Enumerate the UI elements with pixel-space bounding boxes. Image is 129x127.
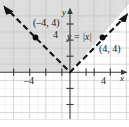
point-label-left: (–4, 4)	[33, 18, 60, 28]
graph-canvas	[0, 0, 129, 127]
y-tick-label-positive-four: 4	[53, 30, 58, 40]
point-marker-left	[33, 35, 39, 41]
absolute-value-graph-figure: (–4, 4) (4, 4) y = |x| x y –4 4 4	[0, 0, 129, 127]
point-marker-right	[100, 35, 106, 41]
point-label-right: (4, 4)	[99, 44, 121, 54]
x-tick-label-positive-four: 4	[101, 76, 106, 86]
y-axis-label: y	[62, 8, 66, 17]
x-axis-label: x	[120, 74, 124, 83]
x-tick-label-negative-four: –4	[24, 76, 34, 86]
equation-label: y = |x|	[67, 33, 92, 43]
